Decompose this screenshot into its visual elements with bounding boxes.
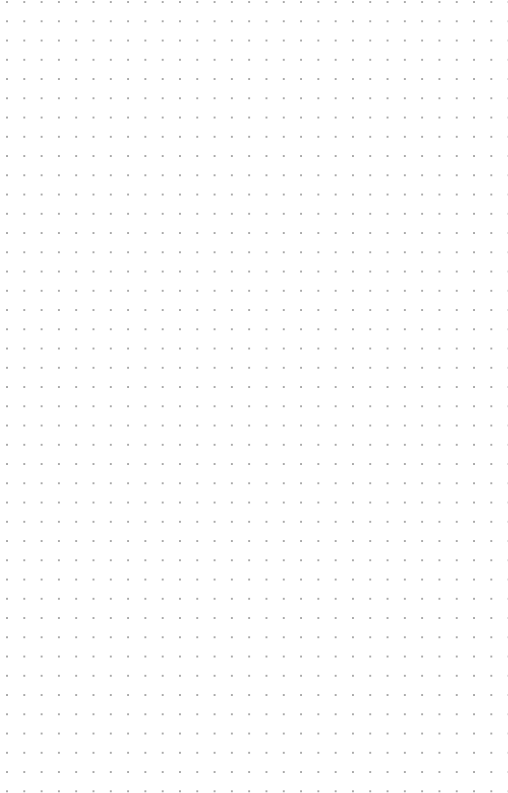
dot-grid-canvas: [0, 0, 508, 793]
